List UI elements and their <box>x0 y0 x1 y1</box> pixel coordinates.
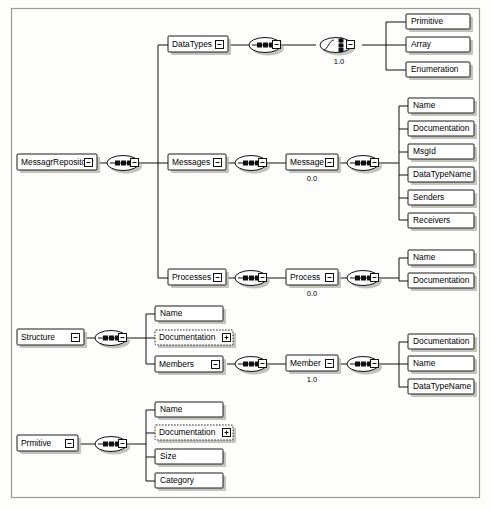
leaf-label-receivers: Receivers <box>413 215 450 225</box>
node-structure[interactable]: Structure <box>17 329 87 348</box>
choice-compositor-icon-datatypes[interactable]: 1.0 <box>320 38 355 67</box>
node-label-structure: Structure <box>21 332 55 342</box>
node-label-messages: Messages <box>172 157 210 167</box>
leaf-label-documentation: Documentation <box>413 275 470 285</box>
collapse-minus-box-icon[interactable] <box>216 41 224 49</box>
leaf-process-name[interactable]: Name <box>408 250 477 268</box>
leaf-enumeration[interactable]: Enumeration <box>406 62 473 80</box>
cardinality-member: 1.0 <box>307 375 318 384</box>
sequence-compositor-icon-message[interactable] <box>347 156 382 174</box>
node-label-prmitive: Prmitive <box>21 438 52 448</box>
leaf-member-documentation[interactable]: Documentation <box>408 334 477 352</box>
leaf-structure-name[interactable]: Name <box>155 306 226 324</box>
schema-tree-svg: MessagrRepository DataTypes <box>0 0 491 509</box>
node-label-message: Message <box>290 157 324 167</box>
node-label-messagr-repository: MessagrRepository <box>21 157 94 167</box>
node-datatypes[interactable]: DataTypes <box>168 36 231 55</box>
leaf-label-category: Category <box>160 475 195 485</box>
leaf-prmitive-size[interactable]: Size <box>155 449 226 467</box>
schema-diagram-canvas: MessagrRepository DataTypes <box>0 0 491 509</box>
collapse-minus-box-icon[interactable] <box>326 159 334 167</box>
collapse-minus-box-icon[interactable] <box>326 274 334 282</box>
node-members[interactable]: Members <box>155 356 226 375</box>
cardinality-message: 0.0 <box>307 174 318 183</box>
leaf-label-documentation: Documentation <box>413 123 470 133</box>
leaf-label-name: Name <box>413 252 436 262</box>
leaf-label-documentation: Documentation <box>159 332 216 342</box>
node-member[interactable]: Member 1.0 <box>286 355 341 384</box>
sequence-compositor-icon-prmitive[interactable] <box>95 437 130 455</box>
expand-plus-box-icon[interactable] <box>223 334 231 342</box>
leaf-prmitive-name[interactable]: Name <box>155 402 226 420</box>
leaf-label-enumeration: Enumeration <box>411 64 459 74</box>
leaf-label-name: Name <box>160 308 183 318</box>
collapse-minus-box-icon[interactable] <box>214 159 222 167</box>
leaf-member-name[interactable]: Name <box>408 356 477 374</box>
leaf-label-datatypename: DataTypeName <box>413 169 472 179</box>
node-process[interactable]: Process 0.0 <box>286 269 341 298</box>
collapse-minus-box-icon[interactable] <box>214 274 222 282</box>
collapse-minus-box-icon[interactable] <box>212 361 220 369</box>
node-label-processes: Processes <box>172 272 211 282</box>
leaf-label-datatypename: DataTypeName <box>413 381 472 391</box>
sequence-compositor-icon-datatypes[interactable] <box>249 38 284 56</box>
collapse-minus-box-icon[interactable] <box>66 440 74 448</box>
leaf-structure-documentation[interactable]: Documentation <box>155 330 236 348</box>
leaf-label-documentation: Documentation <box>413 336 470 346</box>
cardinality-datatypes-choice: 1.0 <box>334 57 345 66</box>
collapse-minus-box-icon[interactable] <box>72 334 80 342</box>
node-label-member: Member <box>290 358 321 368</box>
collapse-minus-box-icon[interactable] <box>326 360 334 368</box>
sequence-compositor-icon-messages[interactable] <box>235 156 270 174</box>
collapse-minus-box-icon[interactable] <box>85 159 93 167</box>
sequence-compositor-icon-members[interactable] <box>235 357 270 375</box>
leaf-label-documentation: Documentation <box>159 427 216 437</box>
leaf-label-name: Name <box>413 100 436 110</box>
leaf-member-datatypename[interactable]: DataTypeName <box>408 379 477 397</box>
sequence-compositor-icon-processes[interactable] <box>235 271 270 289</box>
leaf-label-primitive: Primitive <box>411 16 443 26</box>
sequence-compositor-icon-structure[interactable] <box>95 331 130 349</box>
leaf-label-size: Size <box>160 451 177 461</box>
leaf-message-name[interactable]: Name <box>408 98 477 116</box>
node-prmitive[interactable]: Prmitive <box>17 435 81 454</box>
leaf-message-datatypename[interactable]: DataTypeName <box>408 167 477 185</box>
sequence-compositor-icon-process[interactable] <box>347 271 382 289</box>
sequence-compositor-icon-member[interactable] <box>347 357 382 375</box>
leaf-process-documentation[interactable]: Documentation <box>408 273 477 291</box>
connector-group-repository <box>99 22 408 281</box>
expand-plus-box-icon[interactable] <box>223 429 231 437</box>
leaf-label-name: Name <box>413 358 436 368</box>
node-messages[interactable]: Messages <box>168 154 229 173</box>
node-message[interactable]: Message 0.0 <box>286 154 341 183</box>
leaf-prmitive-documentation[interactable]: Documentation <box>155 425 236 443</box>
sequence-compositor-icon-repository[interactable] <box>107 156 142 174</box>
leaf-primitive[interactable]: Primitive <box>406 14 473 32</box>
leaf-label-array: Array <box>411 39 432 49</box>
leaf-message-senders[interactable]: Senders <box>408 190 477 208</box>
leaf-message-documentation[interactable]: Documentation <box>408 121 477 139</box>
leaf-message-receivers[interactable]: Receivers <box>408 213 477 231</box>
leaf-array[interactable]: Array <box>406 37 473 55</box>
node-label-process: Process <box>290 272 320 282</box>
node-label-members: Members <box>159 359 194 369</box>
leaf-prmitive-category[interactable]: Category <box>155 473 226 491</box>
node-processes[interactable]: Processes <box>168 269 229 288</box>
leaf-label-name: Name <box>160 404 183 414</box>
connector-group-structure <box>86 314 408 387</box>
cardinality-process: 0.0 <box>307 289 318 298</box>
node-messagr-repository[interactable]: MessagrRepository <box>17 154 100 173</box>
node-label-datatypes: DataTypes <box>172 39 212 49</box>
leaf-label-senders: Senders <box>413 192 444 202</box>
leaf-label-msgid: MsgId <box>413 146 436 156</box>
leaf-message-msgid[interactable]: MsgId <box>408 144 477 162</box>
